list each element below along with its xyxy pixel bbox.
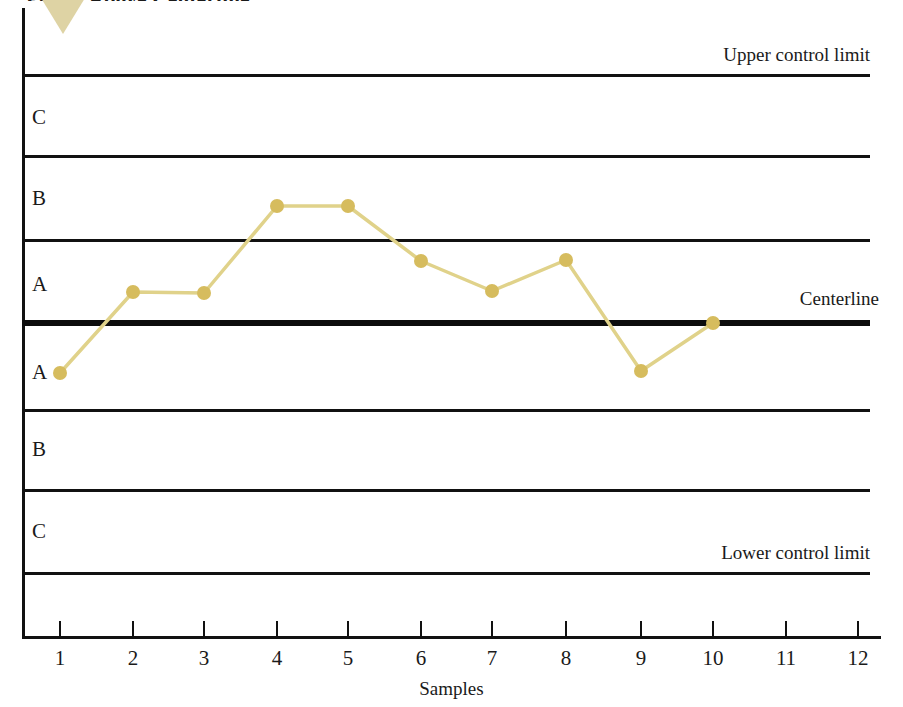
x-tick-3 [203,621,205,636]
upper-control-limit-label: Upper control limit [723,44,870,66]
zone-label-a-upper: A [32,272,47,297]
data-point-sample-5 [341,199,355,213]
x-tick-1 [59,621,61,636]
x-tick-12 [857,621,859,636]
x-tick-6 [420,621,422,636]
series-polyline [60,206,713,373]
upper-control-limit-line [22,74,870,77]
x-tick-7 [491,621,493,636]
x-tick-label-6: 6 [401,646,441,671]
zone-label-c-lower: C [32,519,46,544]
zone-b-a-upper-line [22,239,870,242]
x-tick-label-10: 10 [693,646,733,671]
zone-label-b-lower: B [32,437,46,462]
x-tick-label-12: 12 [838,646,878,671]
zone-label-b-upper: B [32,186,46,211]
centerline-line [22,320,870,326]
data-point-sample-2 [126,285,140,299]
zone-c-b-upper-line [22,155,870,158]
data-point-sample-6 [414,254,428,268]
x-axis-title: Samples [0,678,903,700]
zone-label-a-lower: A [32,360,47,385]
x-tick-5 [347,621,349,636]
centerline-label: Centerline [800,288,879,310]
x-tick-label-8: 8 [546,646,586,671]
data-point-sample-9 [634,364,648,378]
lower-control-limit-label: Lower control limit [721,542,870,564]
data-point-sample-7 [485,284,499,298]
series-markers [53,199,720,380]
zone-a-b-lower-line [22,409,870,412]
data-point-sample-4 [270,199,284,213]
x-tick-9 [640,621,642,636]
x-tick-label-11: 11 [766,646,806,671]
data-series [0,0,903,707]
x-tick-label-4: 4 [257,646,297,671]
x-tick-label-2: 2 [113,646,153,671]
down-arrow-icon [41,0,85,34]
x-tick-label-3: 3 [184,646,224,671]
x-tick-8 [565,621,567,636]
x-tick-11 [785,621,787,636]
x-tick-label-7: 7 [472,646,512,671]
x-tick-2 [132,621,134,636]
x-tick-label-9: 9 [621,646,661,671]
x-tick-4 [276,621,278,636]
x-tick-label-1: 1 [40,646,80,671]
data-point-sample-1 [53,366,67,380]
zone-label-c-upper: C [32,105,46,130]
data-point-sample-8 [559,253,573,267]
x-axis-line [22,636,881,639]
control-chart: Points Above Centerline Upper control li… [0,0,903,707]
x-tick-10 [712,621,714,636]
zone-b-c-lower-line [22,489,870,492]
data-point-sample-3 [197,286,211,300]
x-tick-label-5: 5 [328,646,368,671]
lower-control-limit-line [22,572,870,575]
